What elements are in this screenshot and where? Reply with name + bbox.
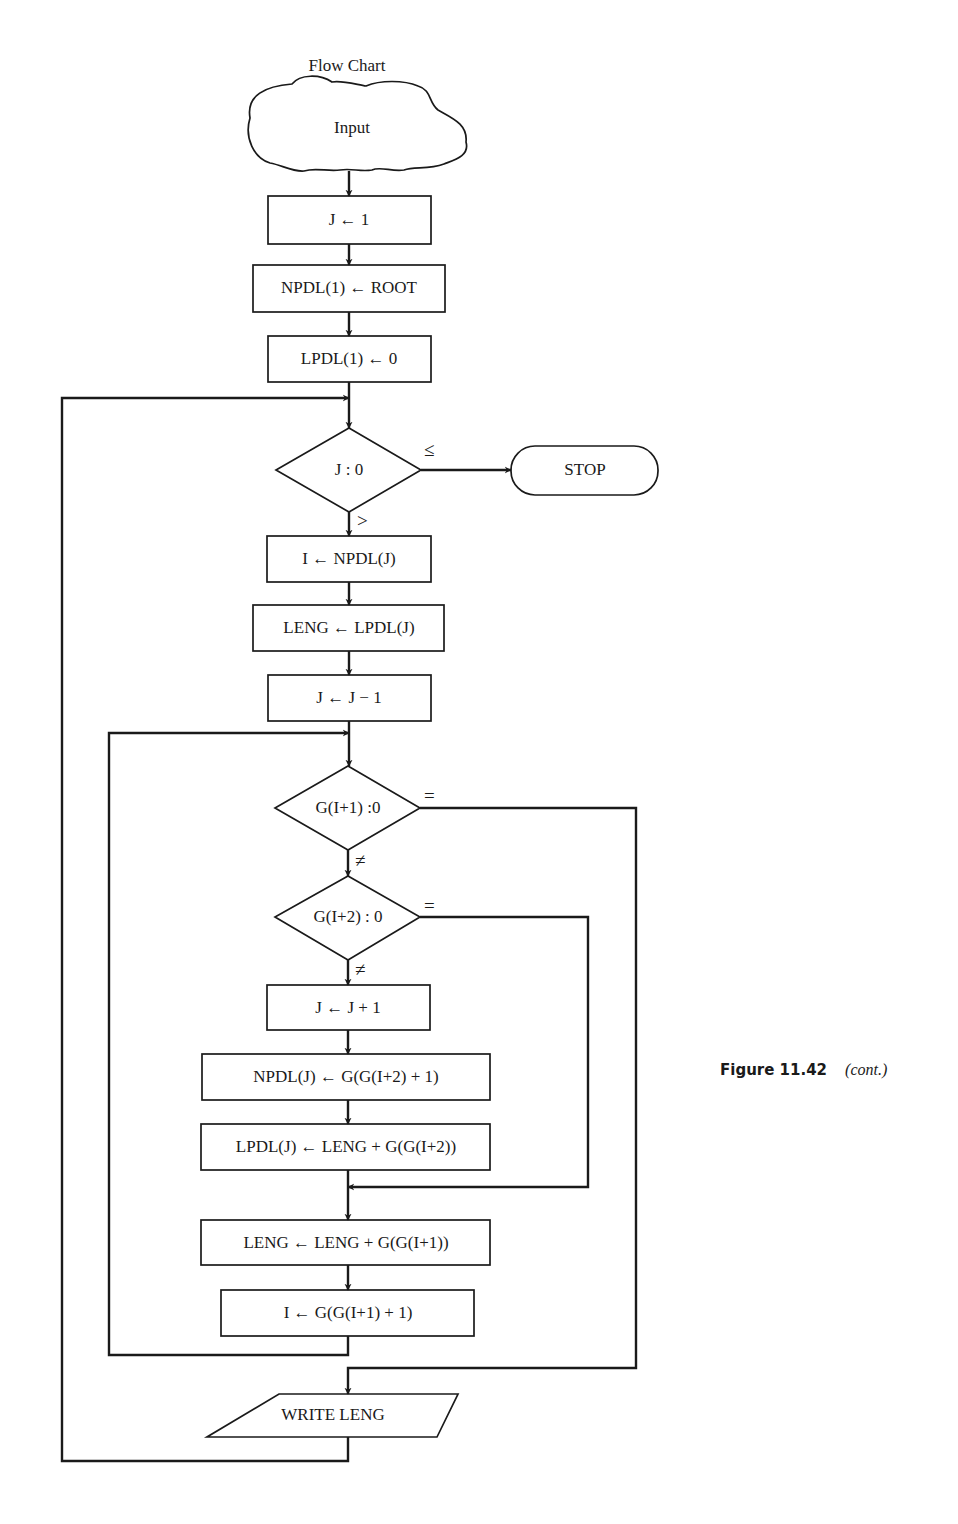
diagram-title: Flow Chart xyxy=(309,56,386,76)
condition-g2-eq: = xyxy=(424,896,435,916)
i-assign-node: I ← NPDL(J) xyxy=(302,549,396,569)
figure-note: (cont.) xyxy=(845,1061,887,1078)
decision-g2-node: G(I+2) : 0 xyxy=(313,907,382,927)
condition-g1-eq: = xyxy=(424,786,435,806)
j-dec-node: J ← J − 1 xyxy=(316,688,381,708)
condition-g2-ne: ≠ xyxy=(355,960,365,980)
input-node: Input xyxy=(334,118,370,138)
npdl-init-node: NPDL(1) ← ROOT xyxy=(281,278,417,298)
lpdl-init-node: LPDL(1) ← 0 xyxy=(301,349,397,369)
stop-node: STOP xyxy=(564,460,605,480)
i-update-node: I ← G(G(I+1) + 1) xyxy=(284,1303,413,1323)
condition-g1-ne: ≠ xyxy=(355,851,365,871)
figure-caption: Figure 11.42(cont.) xyxy=(720,1061,887,1079)
decision-j-node: J : 0 xyxy=(335,460,363,480)
j-inc-node: J ← J + 1 xyxy=(315,998,380,1018)
decision-g1-node: G(I+1) :0 xyxy=(316,798,381,818)
condition-j-le: ≤ xyxy=(424,440,434,460)
lpdl-push-node: LPDL(J) ← LENG + G(G(I+2)) xyxy=(236,1137,456,1157)
leng-assign-node: LENG ← LPDL(J) xyxy=(283,618,414,638)
leng-update-node: LENG ← LENG + G(G(I+1)) xyxy=(243,1233,448,1253)
flowchart-canvas xyxy=(0,0,958,1524)
write-node: WRITE LENG xyxy=(281,1405,384,1425)
condition-j-gt: > xyxy=(357,511,368,531)
figure-number: Figure 11.42 xyxy=(720,1061,827,1079)
npdl-push-node: NPDL(J) ← G(G(I+2) + 1) xyxy=(253,1067,438,1087)
j-init-node: J ← 1 xyxy=(329,210,370,230)
